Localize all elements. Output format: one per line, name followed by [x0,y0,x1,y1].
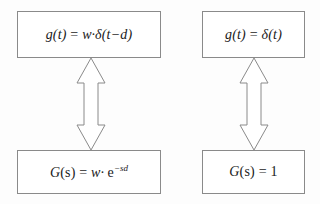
formula-laplace-domain-unit-impulse: G(s) = 1 [229,165,277,179]
box-laplace-domain-weighted-delayed-impulse: G(s) = w· e−sd [17,150,161,194]
formula-equals: = [246,27,262,42]
box-time-domain-unit-impulse: g(t) = δ(t) [202,11,305,58]
formula-delta-term: δ(t) [261,27,282,42]
formula-time-domain-unit-impulse: g(t) = δ(t) [225,28,282,42]
formula-rhs-value: 1 [270,164,277,179]
formula-lhs: g(t) [225,27,246,42]
box-laplace-domain-unit-impulse: G(s) = 1 [202,150,305,194]
diagram-canvas: g(t) = w·δ(t−d) G(s) = w· e−sd g(t) = δ(… [0,0,320,204]
formula-lhs: g(t) [46,27,67,42]
formula-weight: w· [82,27,95,42]
formula-equals: = [255,164,271,179]
connector-arrow-left-column [76,57,106,151]
formula-lhs-var: G [50,165,60,180]
box-time-domain-weighted-delayed-impulse: g(t) = w·δ(t−d) [17,11,161,58]
formula-lhs-var: G [229,164,239,179]
formula-exponent: −sd [114,163,128,173]
formula-lhs-arg: (s) [60,165,75,180]
formula-time-domain-weighted-delayed-impulse: g(t) = w·δ(t−d) [46,28,133,42]
formula-equals: = [67,27,83,42]
formula-weight: w· [91,165,104,180]
formula-lhs-arg: (s) [240,164,255,179]
connector-arrow-right-column [239,57,269,151]
formula-equals: = [76,165,92,180]
formula-delta-term: δ(t−d) [95,27,132,42]
formula-laplace-domain-weighted-delayed-impulse: G(s) = w· e−sd [50,164,128,180]
